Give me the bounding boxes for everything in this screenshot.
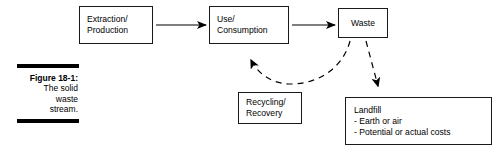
node-landfill-bullet-1: - Earth or air (354, 116, 402, 127)
node-recycling-line-1: Recycling/ (246, 97, 286, 108)
edge-waste-to-use-dashed (251, 41, 350, 84)
caption-line-3: stream. (17, 104, 78, 114)
caption-rule-bottom (17, 119, 79, 123)
node-recycling-line-2: Recovery (246, 108, 282, 119)
node-recycling-recovery: Recycling/ Recovery (238, 92, 302, 124)
node-extraction-line-2: Production (87, 25, 128, 36)
caption-title: Figure 18-1: (17, 73, 78, 83)
edge-waste-to-landfill-dashed (366, 41, 378, 86)
node-extraction-production: Extraction/ Production (79, 6, 153, 44)
node-landfill-title: Landfill (354, 105, 381, 116)
node-use-line-2: Consumption (217, 25, 268, 36)
caption-text: Figure 18-1: The solid waste stream. (17, 68, 79, 119)
caption-line-1: The solid (17, 83, 78, 93)
figure-caption: Figure 18-1: The solid waste stream. (17, 64, 79, 123)
node-extraction-line-1: Extraction/ (87, 14, 128, 25)
node-landfill-bullet-2: - Potential or actual costs (354, 127, 451, 138)
caption-line-2: waste (17, 94, 78, 104)
node-use-line-1: Use/ (217, 14, 235, 25)
node-waste-label: Waste (351, 18, 375, 29)
node-use-consumption: Use/ Consumption (209, 6, 289, 44)
node-landfill: Landfill - Earth or air - Potential or a… (345, 97, 492, 145)
figure-container: Figure 18-1: The solid waste stream. Ext… (0, 0, 500, 154)
node-waste: Waste (338, 8, 388, 38)
